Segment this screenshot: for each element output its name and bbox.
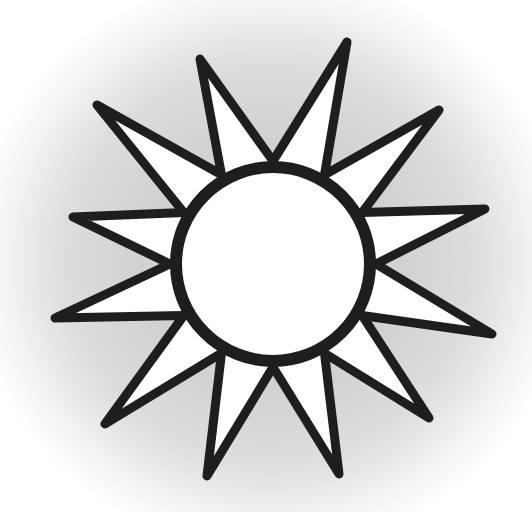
- sun-disc: [176, 167, 370, 361]
- sun-illustration-canvas: sun-icon: [0, 0, 532, 512]
- sun-icon: [0, 0, 532, 512]
